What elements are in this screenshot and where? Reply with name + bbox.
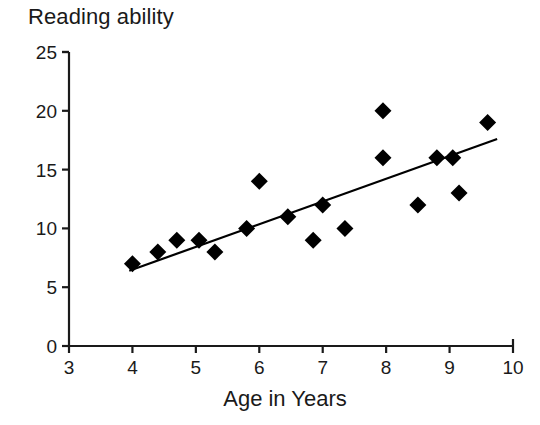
x-tick-label: 5 [191, 357, 202, 378]
y-tick-label: 25 [36, 42, 57, 63]
data-point-marker [374, 102, 391, 119]
data-point-marker [206, 243, 223, 260]
y-tick-label: 5 [46, 277, 57, 298]
x-tick-label: 3 [64, 357, 75, 378]
data-point-marker [191, 232, 208, 249]
x-axis-title: Age in Years [193, 386, 347, 411]
y-axis-title: Reading ability [28, 4, 174, 30]
scatter-chart: Reading ability 0510152025 345678910 Age… [0, 0, 540, 425]
data-point-marker [374, 149, 391, 166]
y-tick-label: 10 [36, 218, 57, 239]
data-point-marker [168, 232, 185, 249]
data-point-marker [409, 196, 426, 213]
data-point-marker [238, 220, 255, 237]
x-tick-label: 4 [127, 357, 138, 378]
data-point-marker [451, 185, 468, 202]
data-points [124, 102, 496, 272]
x-axis-title-wrap: Age in Years [0, 386, 540, 412]
x-tick-label: 6 [254, 357, 265, 378]
data-point-marker [251, 173, 268, 190]
y-axis-ticks: 0510152025 [36, 42, 69, 357]
x-tick-label: 8 [381, 357, 392, 378]
y-tick-label: 15 [36, 160, 57, 181]
data-point-marker [305, 232, 322, 249]
y-tick-label: 20 [36, 101, 57, 122]
plot-area: 0510152025 345678910 [0, 0, 540, 425]
x-tick-label: 9 [444, 357, 455, 378]
data-point-marker [336, 220, 353, 237]
x-tick-label: 7 [317, 357, 328, 378]
data-point-marker [479, 114, 496, 131]
data-point-marker [124, 255, 141, 272]
y-tick-label: 0 [46, 336, 57, 357]
x-tick-label: 10 [502, 357, 523, 378]
x-axis-ticks: 345678910 [64, 346, 524, 378]
